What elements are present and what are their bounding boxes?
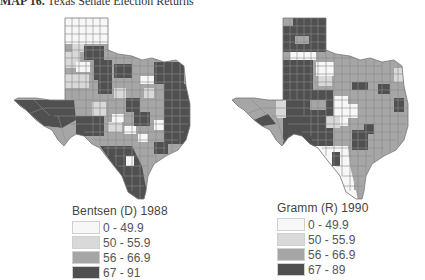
legend-swatch bbox=[72, 236, 100, 249]
legend-item: 0 - 49.9 bbox=[277, 217, 368, 232]
legend-swatch bbox=[72, 251, 100, 264]
legend-item: 56 - 66.9 bbox=[277, 247, 368, 262]
legend-bentsen: Bentsen (D) 1988 0 - 49.9 50 - 55.9 56 -… bbox=[72, 204, 168, 280]
map-title: MAP 16. Texas Senate Election Returns bbox=[0, 0, 194, 9]
legend-item: 0 - 49.9 bbox=[72, 220, 168, 235]
choropleth-bentsen bbox=[14, 16, 204, 201]
choropleth-gramm bbox=[232, 16, 422, 201]
legend-label: 56 - 66.9 bbox=[103, 251, 150, 265]
legend-swatch bbox=[277, 263, 305, 276]
map-title-text: Texas Senate Election Returns bbox=[47, 0, 193, 8]
legend-item: 56 - 66.9 bbox=[72, 250, 168, 265]
legend-label: 0 - 49.9 bbox=[308, 218, 349, 232]
texas-map-bentsen bbox=[14, 16, 204, 201]
legend-swatch bbox=[277, 233, 305, 246]
legend-label: 67 - 91 bbox=[103, 266, 140, 280]
legend-item: 67 - 89 bbox=[277, 262, 368, 277]
legend-swatch bbox=[72, 221, 100, 234]
legend-item: 50 - 55.9 bbox=[277, 232, 368, 247]
legend-swatch bbox=[72, 266, 100, 279]
legend-title: Bentsen (D) 1988 bbox=[72, 204, 168, 218]
texas-map-gramm bbox=[232, 16, 422, 201]
legend-title: Gramm (R) 1990 bbox=[277, 201, 368, 215]
legend-label: 56 - 66.9 bbox=[308, 248, 355, 262]
legend-swatch bbox=[277, 248, 305, 261]
legend-label: 67 - 89 bbox=[308, 263, 345, 277]
legend-label: 50 - 55.9 bbox=[103, 236, 150, 250]
legend-label: 50 - 55.9 bbox=[308, 233, 355, 247]
map-number: MAP 16. bbox=[0, 0, 45, 8]
legend-item: 67 - 91 bbox=[72, 265, 168, 280]
legend-label: 0 - 49.9 bbox=[103, 221, 144, 235]
legend-swatch bbox=[277, 218, 305, 231]
legend-gramm: Gramm (R) 1990 0 - 49.9 50 - 55.9 56 - 6… bbox=[277, 201, 368, 277]
legend-item: 50 - 55.9 bbox=[72, 235, 168, 250]
